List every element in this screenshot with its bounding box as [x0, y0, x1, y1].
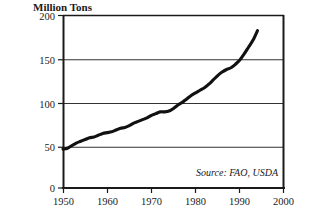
y-tick-label-100: 100 [39, 99, 55, 110]
chart-page: Million Tons 200 150 100 50 [0, 0, 315, 218]
source-note: Source: FAO, USDA [196, 167, 279, 178]
y-tick-label-150: 150 [39, 55, 55, 66]
x-tick-label-1950: 1950 [53, 196, 74, 207]
gridlines [63, 60, 284, 148]
x-tick-label-1970: 1970 [141, 196, 162, 207]
line-chart: Million Tons 200 150 100 50 [0, 0, 315, 218]
x-tick-label-1990: 1990 [229, 196, 250, 207]
y-tick-label-50: 50 [45, 142, 56, 153]
y-tick-marks [58, 16, 63, 189]
data-series-line [63, 31, 257, 150]
x-tick-label-2000: 2000 [273, 196, 294, 207]
y-tick-labels: 200 150 100 50 0 [39, 11, 55, 195]
y-tick-label-200: 200 [39, 11, 55, 22]
x-tick-label-1960: 1960 [97, 196, 118, 207]
x-tick-label-1980: 1980 [185, 196, 206, 207]
x-tick-labels: 1950 1960 1970 1980 1990 2000 [53, 196, 294, 207]
y-tick-label-0: 0 [50, 183, 55, 194]
